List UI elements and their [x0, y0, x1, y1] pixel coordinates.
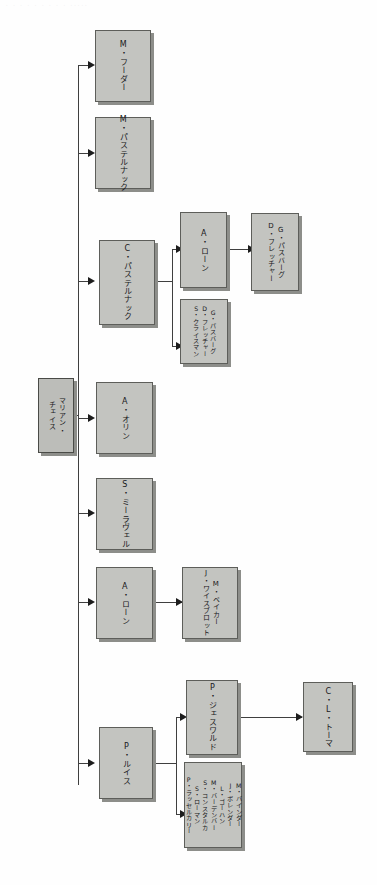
- arrow-p-jesworld-to-c-l-toma: [296, 713, 303, 721]
- node-label: S・ミーラヴェル: [119, 480, 131, 548]
- node-label: M・フーダー: [117, 40, 129, 91]
- node-label: A・オリン: [119, 397, 131, 440]
- node-label: C・パステルナック: [121, 244, 133, 321]
- node-c-l-toma[interactable]: C・L・トーマ: [303, 682, 353, 752]
- connector-p-lewis-out: [156, 763, 176, 764]
- arrow-root-to-s-miraveru: [88, 509, 95, 517]
- node-label: C・L・トーマ: [322, 687, 334, 748]
- diagram-canvas: · · · · · · · · · ····· M・フーダー: [0, 0, 377, 885]
- node-m-fuhrer[interactable]: M・フーダー: [95, 30, 151, 102]
- node-label: G・パスバーグ D・フレッチャー: [265, 222, 285, 282]
- node-label: A・ローン: [198, 229, 210, 272]
- connector-c-pasternack-out: [156, 281, 172, 282]
- connector-root-spine: [78, 65, 79, 785]
- node-label: P・ルイス: [120, 742, 132, 785]
- node-label: M・パステルナック: [117, 115, 129, 192]
- arrow-root-to-a-lawn-2: [88, 598, 95, 606]
- node-m-baker[interactable]: M・ベイカー J・ワイスブロット: [182, 567, 238, 639]
- node-label: P・ジェスワルド: [206, 683, 218, 751]
- node-label: G・パスバーグ D・フレッチャー S・クライスマン: [191, 305, 216, 357]
- node-g-passburg-3[interactable]: G・パスバーグ D・フレッチャー S・クライスマン: [180, 299, 228, 364]
- node-c-pasternack[interactable]: C・パステルナック: [99, 240, 155, 325]
- node-a-lawn-2[interactable]: A・ローン: [96, 567, 153, 639]
- node-a-lawn-1[interactable]: A・ローン: [180, 212, 227, 288]
- node-m-pasternack[interactable]: M・パステルナック: [95, 117, 151, 189]
- arrow-root-to-a-orin: [88, 414, 95, 422]
- connector-c-pasternack-spine: [172, 249, 173, 347]
- node-a-orin[interactable]: A・オリン: [96, 382, 153, 454]
- node-label: M・バインダー J・ボレンダー L・ゴーハン M・バーデンバー S・コンスタルカ…: [184, 776, 243, 835]
- arrow-root-to-m-pasternack: [88, 149, 95, 157]
- scan-header-strip: · · · · · · · · · ·····: [0, 0, 377, 10]
- arrow-root-to-c-pasternack: [88, 277, 95, 285]
- node-p-jesworld[interactable]: P・ジェスワルド: [186, 680, 238, 755]
- node-g-passburg-2[interactable]: G・パスバーグ D・フレッチャー: [251, 213, 299, 291]
- node-label: M・ベイカー J・ワイスブロット: [200, 569, 220, 637]
- node-staff-list[interactable]: M・バインダー J・ボレンダー L・ゴーハン M・バーデンバー S・コンスタルカ…: [184, 762, 242, 848]
- connector-p-jesworld-to-c-l-toma: [240, 717, 302, 718]
- node-label: A・ローン: [119, 582, 131, 625]
- node-root-marian-chase[interactable]: マリアン・ チェイス: [38, 378, 74, 453]
- node-label: マリアン・ チェイス: [46, 397, 66, 434]
- arrow-root-to-m-fuhrer: [88, 61, 95, 69]
- node-s-miraveru[interactable]: S・ミーラヴェル: [96, 478, 153, 550]
- connector-p-lewis-spine: [176, 717, 177, 815]
- connector-root-stub: [74, 415, 79, 416]
- arrow-root-to-p-lewis: [88, 759, 95, 767]
- node-p-lewis[interactable]: P・ルイス: [99, 727, 153, 799]
